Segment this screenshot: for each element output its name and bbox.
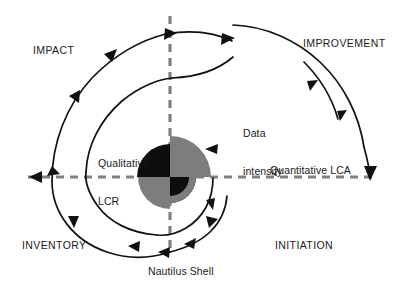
arrowhead-axis-terminal-down <box>364 166 377 181</box>
label-data-intensity-line1: Data <box>243 127 282 140</box>
label-qualitative-lcr-line1: Qualitative <box>98 157 149 170</box>
arrowhead-top-center <box>164 28 177 40</box>
arrowhead-axis-terminal-left <box>29 171 42 183</box>
arrowhead-bottom-left <box>128 241 140 252</box>
arrowhead-upper-left-a <box>104 49 117 62</box>
label-qualitative-lcr-line2: LCR <box>98 195 149 208</box>
nautilus-shell-figure: IMPACT IMPROVEMENT INVENTORY INITIATION … <box>0 0 399 294</box>
spiral-arrowheads <box>29 28 377 258</box>
label-improvement: IMPROVEMENT <box>303 37 386 50</box>
arrowhead-upper-right-a <box>307 80 318 91</box>
label-initiation: INITIATION <box>275 239 333 252</box>
spiral-outer-bottom-right <box>170 196 227 252</box>
arrowhead-left-axis <box>47 166 60 176</box>
label-quantitative-lca: Quantitative LCA <box>270 164 351 177</box>
label-inventory: INVENTORY <box>22 239 86 252</box>
spiral-turn-fourth <box>172 57 233 78</box>
label-qualitative-lcr: Qualitative LCR <box>98 131 149 233</box>
arrowhead-top-right <box>221 33 235 45</box>
label-impact: IMPACT <box>33 44 74 57</box>
arrowhead-shell-tip <box>205 144 218 154</box>
figure-caption-nautilus-shell: Nautilus Shell <box>148 265 214 278</box>
label-data-intensity: Data intensity <box>243 101 282 203</box>
spiral-outer-segment-upper-right <box>304 62 338 119</box>
axis-group <box>28 16 378 254</box>
arrowhead-bottom-center <box>158 247 170 258</box>
